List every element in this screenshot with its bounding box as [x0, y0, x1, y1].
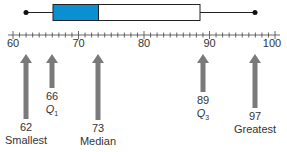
max-annotation: 97 Greatest	[225, 110, 285, 136]
arrow-q3	[197, 54, 209, 92]
min-name: Smallest	[0, 134, 56, 147]
arrow-median	[92, 54, 104, 120]
tick-label-70: 70	[64, 37, 94, 49]
median-annotation: 73 Median	[68, 122, 128, 148]
tick-label-90: 90	[195, 37, 225, 49]
min-point	[24, 10, 29, 15]
arrow-q1	[46, 54, 58, 88]
tick-label-60: 60	[0, 37, 28, 49]
arrow-max	[249, 54, 261, 108]
max-name: Greatest	[225, 123, 285, 136]
median-name: Median	[68, 135, 128, 148]
q3-name: Q3	[173, 107, 233, 124]
tick-label-80: 80	[129, 37, 159, 49]
q3-annotation: 89 Q3	[173, 94, 233, 124]
lower-box	[53, 5, 99, 21]
max-point	[253, 10, 258, 15]
tick-label-100: 100	[257, 37, 287, 49]
q1-name: Q1	[22, 103, 82, 120]
max-value: 97	[225, 110, 285, 123]
min-value: 62	[0, 121, 56, 134]
upper-box	[99, 5, 201, 21]
q1-annotation: 66 Q1	[22, 90, 82, 120]
q3-value: 89	[173, 94, 233, 107]
q1-value: 66	[22, 90, 82, 103]
min-annotation: 62 Smallest	[0, 121, 56, 147]
median-value: 73	[68, 122, 128, 135]
